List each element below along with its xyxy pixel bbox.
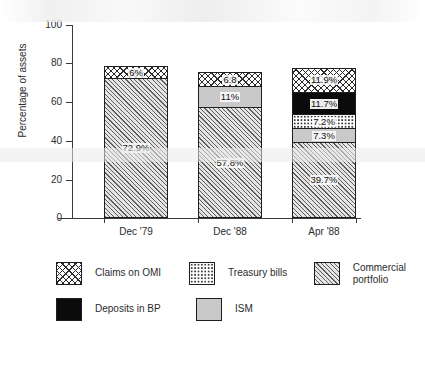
x-tick-label-apr-88: Apr '88 — [279, 226, 369, 237]
legend-item-ism[interactable]: ISM — [196, 298, 327, 321]
segment-label: 6.8 — [222, 75, 237, 85]
y-tick-label-20: 20 — [36, 175, 62, 185]
segment-claims-on-omi[interactable]: 11.9% — [293, 69, 355, 92]
segment-label: 57.8% — [216, 158, 245, 168]
segment-ism[interactable]: 7.3% — [293, 128, 355, 142]
commercial-portfolio-swatch-icon — [314, 262, 340, 285]
legend: Claims on OMI Treasury bills Commercial … — [56, 262, 406, 321]
ism-swatch-icon — [196, 298, 222, 321]
legend-row-2: Deposits in BP ISM — [56, 298, 406, 321]
x-tick-mark-2 — [292, 218, 293, 223]
treasury-bills-swatch-icon — [189, 262, 215, 285]
deposits-in-bp-swatch-icon — [56, 298, 82, 321]
x-tick-label-dec-88: Dec '88 — [185, 226, 275, 237]
segment-label: 6% — [128, 68, 144, 78]
legend-label: ISM — [235, 298, 253, 315]
segment-commercial-portfolio[interactable]: 72.9% — [105, 78, 167, 217]
y-tick-label-100: 100 — [36, 20, 62, 30]
segment-label: 39.7% — [310, 175, 339, 185]
legend-item-deposits-in-bp[interactable]: Deposits in BP — [56, 298, 196, 321]
x-tick-mark-3 — [356, 218, 357, 223]
bar-dec-79[interactable]: 6% 72.9% — [104, 66, 168, 218]
segment-label: 11% — [220, 92, 240, 102]
y-tick-label-40: 40 — [36, 136, 62, 146]
y-tick-labels: 100 80 60 40 20 0 — [32, 0, 62, 240]
segment-commercial-portfolio[interactable]: 39.7% — [293, 142, 355, 217]
legend-item-commercial-portfolio[interactable]: Commercial portfolio — [314, 262, 406, 285]
plot-area: 6% 72.9% 6.8 11% 57.8% 11.9% 11.7% 7.2% … — [72, 25, 357, 218]
segment-treasury-bills[interactable]: 7.2% — [293, 114, 355, 128]
bar-dec-88[interactable]: 6.8 11% 57.8% — [198, 72, 262, 218]
y-tick-mark-0 — [66, 218, 73, 219]
scan-artifact-top — [0, 0, 425, 22]
y-tick-label-0: 0 — [36, 213, 62, 223]
y-tick-label-60: 60 — [36, 97, 62, 107]
segment-label: 7.2% — [312, 117, 336, 127]
segment-deposits-in-bp[interactable]: 11.7% — [293, 92, 355, 115]
legend-label: Treasury bills — [228, 262, 287, 279]
legend-row-1: Claims on OMI Treasury bills Commercial … — [56, 262, 406, 285]
segment-label: 72.9% — [122, 143, 151, 153]
x-tick-label-dec-79: Dec '79 — [91, 226, 181, 237]
segment-ism[interactable]: 11% — [199, 86, 261, 107]
claims-on-omi-swatch-icon — [56, 262, 82, 285]
segment-claims-on-omi[interactable]: 6% — [105, 67, 167, 79]
segment-label: 11.7% — [310, 99, 338, 109]
x-tick-mark-1 — [198, 218, 199, 223]
legend-item-claims-on-omi[interactable]: Claims on OMI — [56, 262, 189, 285]
legend-label: Commercial portfolio — [353, 262, 406, 285]
segment-claims-on-omi[interactable]: 6.8 — [199, 73, 261, 86]
segment-label: 11.9% — [310, 75, 338, 85]
y-tick-label-80: 80 — [36, 58, 62, 68]
segment-commercial-portfolio[interactable]: 57.8% — [199, 107, 261, 217]
legend-item-treasury-bills[interactable]: Treasury bills — [189, 262, 314, 285]
legend-label: Claims on OMI — [95, 262, 161, 279]
x-tick-mark-0 — [104, 218, 105, 223]
bar-apr-88[interactable]: 11.9% 11.7% 7.2% 7.3% 39.7% — [292, 68, 356, 218]
legend-label: Deposits in BP — [95, 298, 161, 315]
y-axis-title: Percentage of assets — [17, 31, 28, 151]
segment-label: 7.3% — [312, 131, 336, 141]
